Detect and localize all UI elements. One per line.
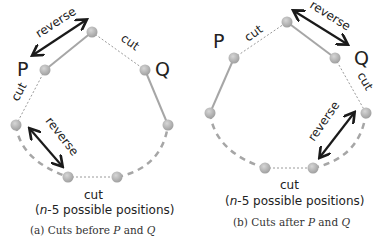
label-cut-left: cut	[8, 80, 29, 104]
panel-a: reverse cut cut reverse P Q cut (n-5 pos…	[8, 4, 174, 237]
caption-b: (b) Cuts after P and Q	[233, 216, 350, 229]
label-q: Q	[155, 58, 170, 80]
edge-top-q-solid	[287, 22, 335, 58]
node-left	[11, 120, 22, 131]
node-right	[361, 108, 372, 119]
caption-a: (a) Cuts before P and Q	[30, 224, 156, 237]
node-top	[87, 27, 98, 38]
edge-p-top-solid	[45, 32, 92, 70]
node-right	[163, 120, 174, 131]
label-possible-positions: (n-5 possible positions)	[225, 194, 365, 208]
edge-p-left-solid	[210, 58, 234, 113]
node-bottom-left	[63, 172, 74, 183]
edge-bottom-right-dashed	[117, 125, 168, 177]
node-bottom-right	[112, 172, 123, 183]
label-cut-bottom: cut	[84, 188, 103, 202]
label-p: P	[17, 58, 28, 80]
label-q: Q	[354, 47, 369, 69]
edge-left-bottom-dashed	[210, 113, 265, 168]
label-cut-right: cut	[354, 70, 376, 94]
node-p	[229, 53, 240, 64]
label-cut-bottom: cut	[280, 178, 299, 192]
label-p: P	[213, 30, 224, 52]
node-q	[330, 53, 341, 64]
node-bottom-left	[260, 163, 271, 174]
label-cut-top: cut	[118, 31, 142, 53]
label-possible-positions: (n-5 possible positions)	[35, 203, 175, 217]
node-p	[40, 65, 51, 76]
panel-b: reverse cut cut reverse P Q cut (n-5 pos…	[205, 0, 377, 229]
node-bottom-right	[308, 163, 319, 174]
node-top	[282, 17, 293, 28]
label-reverse-top: reverse	[33, 4, 78, 40]
node-left	[205, 108, 216, 119]
label-reverse-top: reverse	[307, 0, 353, 33]
diagram-canvas: reverse cut cut reverse P Q cut (n-5 pos…	[0, 0, 380, 240]
node-q	[140, 65, 151, 76]
label-cut-top: cut	[242, 22, 266, 44]
